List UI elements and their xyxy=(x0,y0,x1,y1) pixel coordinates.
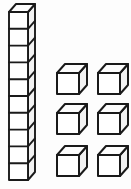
unit-cube-2-front-face xyxy=(98,73,120,94)
unit-cube-1[interactable] xyxy=(57,64,87,94)
unit-cube-5-front-face xyxy=(57,155,79,176)
base-ten-blocks-canvas xyxy=(0,0,131,189)
unit-cube-6[interactable] xyxy=(98,146,128,176)
unit-cube-6-front-face xyxy=(98,155,120,176)
unit-cube-4-front-face xyxy=(98,113,120,134)
unit-cube-2[interactable] xyxy=(98,64,128,94)
unit-cube-3-front-face xyxy=(57,113,79,134)
unit-cube-3[interactable] xyxy=(57,104,87,134)
unit-cube-5[interactable] xyxy=(57,146,87,176)
manipulatives-illustration xyxy=(0,0,131,189)
unit-cube-4[interactable] xyxy=(98,104,128,134)
tens-rod[interactable] xyxy=(9,4,35,180)
unit-cube-1-front-face xyxy=(57,73,79,94)
ones-cubes-group[interactable] xyxy=(57,64,128,176)
